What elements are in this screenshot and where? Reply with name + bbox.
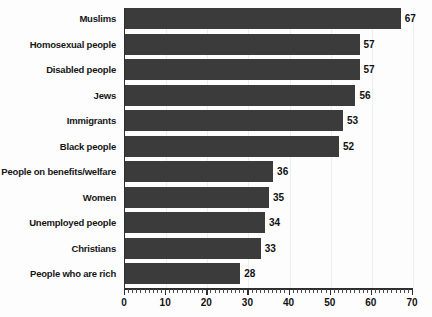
category-label: Unemployed people xyxy=(0,212,120,233)
x-axis-ticks xyxy=(124,289,413,296)
tick-minor xyxy=(383,289,384,293)
bar-row: 57 xyxy=(125,34,413,55)
bar xyxy=(125,110,343,131)
bar-value-label: 53 xyxy=(343,110,358,131)
bar-row: 53 xyxy=(125,110,413,131)
bar-value-label: 57 xyxy=(360,59,375,80)
tick-minor xyxy=(182,289,183,293)
bar xyxy=(125,85,355,106)
tick-minor xyxy=(260,289,261,293)
tick-minor xyxy=(202,289,203,293)
x-tick-label: 50 xyxy=(324,297,335,308)
tick-minor xyxy=(235,289,236,293)
tick-minor xyxy=(363,289,364,293)
tick-minor xyxy=(177,289,178,293)
bar-value-label: 33 xyxy=(261,238,276,259)
tick-minor xyxy=(391,289,392,293)
bar xyxy=(125,263,240,284)
tick-minor xyxy=(359,289,360,293)
tick-minor xyxy=(309,289,310,293)
tick-minor xyxy=(198,289,199,293)
tick-minor xyxy=(227,289,228,293)
tick-minor xyxy=(231,289,232,293)
x-tick-label: 60 xyxy=(365,297,376,308)
tick-minor xyxy=(280,289,281,293)
category-label: Muslims xyxy=(0,8,120,29)
tick-major xyxy=(412,289,413,295)
category-label: Immigrants xyxy=(0,110,120,131)
tick-minor xyxy=(317,289,318,293)
tick-major xyxy=(371,289,372,295)
category-label: Women xyxy=(0,187,120,208)
tick-minor xyxy=(215,289,216,293)
bar-row: 52 xyxy=(125,136,413,157)
tick-minor xyxy=(321,289,322,293)
bar xyxy=(125,161,273,182)
bar xyxy=(125,8,401,29)
tick-minor xyxy=(239,289,240,293)
tick-minor xyxy=(305,289,306,293)
tick-minor xyxy=(404,289,405,293)
tick-major xyxy=(289,289,290,295)
tick-minor xyxy=(157,289,158,293)
tick-minor xyxy=(301,289,302,293)
bar-row: 34 xyxy=(125,212,413,233)
category-axis-labels: MuslimsHomosexual peopleDisabled peopleJ… xyxy=(0,8,120,289)
bar-value-label: 35 xyxy=(269,187,284,208)
tick-major xyxy=(247,289,248,295)
bar-value-label: 36 xyxy=(273,161,288,182)
tick-minor xyxy=(268,289,269,293)
bar xyxy=(125,238,261,259)
tick-minor xyxy=(400,289,401,293)
bar xyxy=(125,212,265,233)
bar-row: 56 xyxy=(125,85,413,106)
bar-value-label: 52 xyxy=(339,136,354,157)
bar-value-label: 34 xyxy=(265,212,280,233)
tick-minor xyxy=(342,289,343,293)
tick-minor xyxy=(379,289,380,293)
x-tick-label: 10 xyxy=(160,297,171,308)
category-label: Jews xyxy=(0,85,120,106)
bar xyxy=(125,34,360,55)
gridline xyxy=(413,8,414,288)
x-tick-label: 40 xyxy=(283,297,294,308)
bar-value-label: 56 xyxy=(355,85,370,106)
category-label: Christians xyxy=(0,238,120,259)
tick-minor xyxy=(140,289,141,293)
tick-minor xyxy=(334,289,335,293)
tick-minor xyxy=(350,289,351,293)
tick-major xyxy=(330,289,331,295)
bar xyxy=(125,59,360,80)
tick-minor xyxy=(243,289,244,293)
tick-minor xyxy=(145,289,146,293)
tick-minor xyxy=(149,289,150,293)
tick-major xyxy=(165,289,166,295)
bar-value-label: 28 xyxy=(240,263,255,284)
x-tick-label: 70 xyxy=(406,297,417,308)
bar xyxy=(125,187,269,208)
x-axis-tick-labels: 010203040506070 xyxy=(124,297,413,313)
tick-major xyxy=(124,289,125,295)
tick-minor xyxy=(173,289,174,293)
tick-minor xyxy=(276,289,277,293)
tick-minor xyxy=(264,289,265,293)
bar-value-label: 67 xyxy=(401,8,416,29)
bar-row: 67 xyxy=(125,8,413,29)
tick-minor xyxy=(346,289,347,293)
tick-minor xyxy=(223,289,224,293)
tick-minor xyxy=(293,289,294,293)
tick-minor xyxy=(153,289,154,293)
bar-row: 57 xyxy=(125,59,413,80)
bar xyxy=(125,136,339,157)
tick-minor xyxy=(272,289,273,293)
tick-minor xyxy=(136,289,137,293)
tick-minor xyxy=(326,289,327,293)
tick-minor xyxy=(313,289,314,293)
bar-row: 36 xyxy=(125,161,413,182)
tick-minor xyxy=(256,289,257,293)
bar-row: 28 xyxy=(125,263,413,284)
tick-minor xyxy=(194,289,195,293)
x-tick-label: 0 xyxy=(121,297,127,308)
tick-minor xyxy=(169,289,170,293)
category-label: Disabled people xyxy=(0,59,120,80)
